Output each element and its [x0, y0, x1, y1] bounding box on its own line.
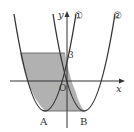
y-tick-3-label: 3: [68, 50, 74, 60]
graph: y x O 3 ① ② A B: [0, 0, 134, 132]
y-axis-label: y: [57, 9, 64, 20]
vertex-b-label: B: [80, 116, 87, 127]
origin-label: O: [59, 83, 66, 93]
y-axis-arrow-icon: [65, 11, 70, 17]
curve-1-label: ①: [74, 10, 83, 21]
x-axis-label: x: [116, 83, 122, 94]
vertex-a-label: A: [39, 116, 48, 127]
curve-2-label: ②: [113, 10, 122, 21]
